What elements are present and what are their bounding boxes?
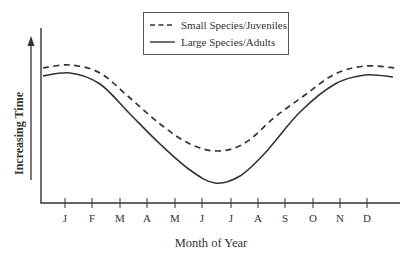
y-axis-title: Increasing Time (12, 91, 26, 175)
x-tick-label: A (254, 212, 262, 224)
x-tick-label: S (282, 212, 288, 224)
x-axis-title: Month of Year (175, 236, 248, 250)
x-tick-label: F (89, 212, 95, 224)
x-tick-label: N (336, 212, 344, 224)
x-axis-tick-labels: JFMAMJJASOND (63, 212, 371, 224)
x-tick-label: J (63, 212, 68, 224)
x-tick-label: J (229, 212, 234, 224)
x-tick-label: J (200, 212, 205, 224)
legend-label-small-species: Small Species/Juveniles (181, 19, 287, 31)
x-tick-label: A (143, 212, 151, 224)
x-tick-label: M (170, 212, 180, 224)
legend-label-large-species: Large Species/Adults (181, 36, 275, 48)
seasonal-timing-chart: Increasing Time JFMAMJJASOND Month of Ye… (0, 0, 411, 263)
legend: Small Species/Juveniles Large Species/Ad… (144, 13, 289, 55)
increasing-time-arrow (28, 36, 35, 180)
series-large-species-adults (43, 73, 393, 183)
x-tick-label: O (309, 212, 317, 224)
x-tick-label: M (115, 212, 125, 224)
x-tick-label: D (363, 212, 371, 224)
series-small-species-juveniles (43, 65, 396, 151)
